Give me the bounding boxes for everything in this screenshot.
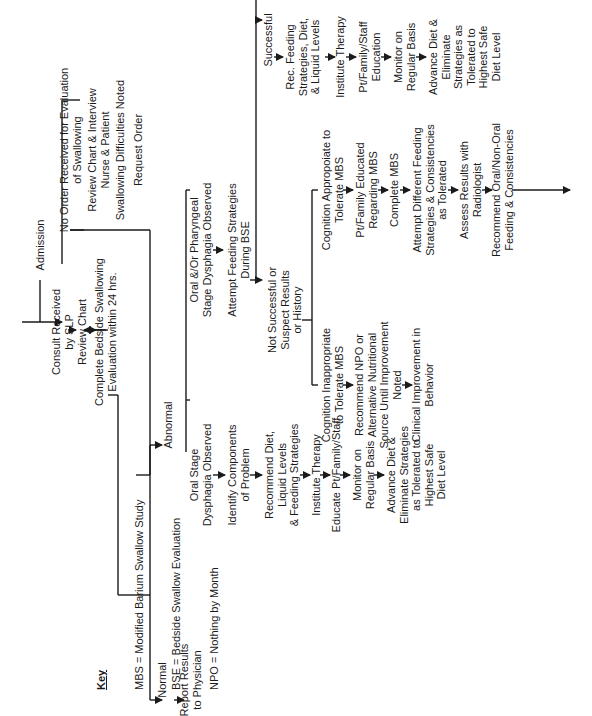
node-monitor-a: Monitor on Regular Basis: [351, 441, 376, 509]
node-consult-received: Consult Received by SLP: [50, 289, 75, 375]
legend-entry-npo: NPO = Nothing by Month: [208, 500, 221, 690]
node-successful: Successful: [262, 13, 275, 66]
node-oral-stage: Oral Stage Dysphagia Observed: [188, 424, 213, 527]
node-pt-family-educated: Pt/Family Educated Regarding MBS: [354, 142, 379, 237]
node-review-interview: Review Chart & Interview Nurse & Patient: [86, 88, 111, 212]
node-abnormal: Abnormal: [162, 401, 175, 448]
node-clinical-improvement: Clinical Improvement in Behavior: [410, 328, 435, 442]
node-cognition-inappropriate: Cognition Inappropriate to Tolerate MBS: [320, 328, 345, 442]
node-institute-therapy-a: Institute Therapy: [310, 434, 323, 516]
node-admission: Admission: [34, 220, 47, 271]
node-difficulties-noted: Swallowing Difficulties Noted: [114, 80, 127, 220]
node-complete-mbs: Complete MBS: [388, 153, 401, 227]
node-cognition-appropriate: Cognition Appropoiate to Tolerate MBS: [320, 130, 345, 250]
node-recommend-oral: Recommend Oral/Non-Oral Feeding & Consis…: [490, 123, 515, 257]
node-rec-feeding: Rec. Feeding Strategies, Diet, & Liquid …: [284, 18, 322, 96]
node-institute-therapy-b: Institute Therapy: [334, 16, 347, 98]
node-identify-components: Identify Components of Problem: [226, 425, 251, 526]
node-complete-bse: Complete Bedside Swallowing Evaluation w…: [93, 258, 118, 406]
node-assess-results: Assess Results with Radiologist: [458, 141, 483, 239]
node-oral-pharyngeal: Oral &/Or Pharyngeal Stage Dysphagia Obs…: [188, 183, 213, 318]
node-no-order: No Order Received for Evaluation of Swal…: [58, 68, 83, 232]
node-monitor-b: Monitor on Regular Basis: [392, 23, 417, 91]
node-pt-family-education: Pt/Family/Staff Education: [357, 21, 382, 92]
node-report-results: Report Results to Physician: [178, 644, 203, 716]
node-not-successful: Not Successful or Suspect Results or His…: [266, 267, 304, 353]
legend-entry-mbs: MBS = Modified Barium Swallow Study: [133, 500, 146, 690]
node-recommend-npo: Recommend NPO or Alternative Nutritional…: [353, 321, 403, 448]
node-normal: Normal: [156, 662, 169, 697]
node-recommend-diet: Recommend Diet, Liquid Levels & Feeding …: [263, 424, 301, 527]
node-attempt-feeding: Attempt Feeding Strategies During BSE: [226, 183, 251, 316]
node-attempt-different: Attempt Different Feeding Strategies & C…: [411, 124, 449, 255]
node-advance-diet-b: Advance Diet & Eliminate Strategies as T…: [427, 19, 502, 95]
node-request-order: Request Order: [132, 114, 145, 186]
node-review-chart: Review Chart: [76, 299, 89, 365]
legend-title: Key: [95, 500, 108, 690]
